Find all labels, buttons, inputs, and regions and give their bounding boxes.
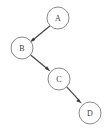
node-b[interactable]: B bbox=[11, 37, 33, 59]
node-c-label: C bbox=[56, 75, 61, 84]
node-d[interactable]: D bbox=[79, 102, 101, 124]
node-b-label: B bbox=[19, 44, 24, 53]
edge-b-to-c-line bbox=[31, 55, 49, 70]
edge-b-to-c[interactable] bbox=[31, 55, 51, 72]
diagram-canvas: A B C D bbox=[0, 0, 107, 128]
edge-a-to-b[interactable] bbox=[30, 26, 50, 43]
edges-group bbox=[30, 26, 82, 104]
graph-svg: A B C D bbox=[0, 0, 107, 128]
node-a[interactable]: A bbox=[47, 7, 69, 29]
edge-c-to-d[interactable] bbox=[67, 87, 82, 103]
nodes-group: A B C D bbox=[11, 7, 101, 124]
node-d-label: D bbox=[87, 109, 93, 118]
node-c[interactable]: C bbox=[48, 68, 70, 90]
node-a-label: A bbox=[55, 14, 61, 23]
edge-a-to-b-line bbox=[32, 26, 50, 41]
edge-c-to-d-line bbox=[67, 87, 80, 101]
